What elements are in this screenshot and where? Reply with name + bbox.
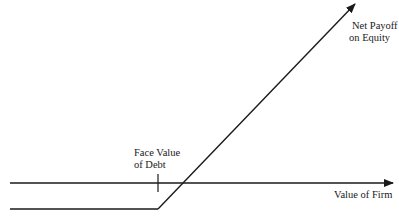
face-value-label-line1: Face Value bbox=[134, 147, 180, 159]
face-value-label-line2: of Debt bbox=[134, 159, 180, 171]
net-payoff-label: Net Payoff on Equity bbox=[349, 20, 398, 44]
x-axis-label: Value of Firm bbox=[334, 189, 392, 201]
payoff-rising-segment bbox=[158, 4, 355, 209]
payoff-diagram-graphic bbox=[0, 0, 399, 219]
payoff-diagram: Net Payoff on Equity Face Value of Debt … bbox=[0, 0, 399, 219]
net-payoff-label-line2: on Equity bbox=[349, 32, 398, 44]
face-value-label: Face Value of Debt bbox=[134, 147, 180, 171]
net-payoff-label-line1: Net Payoff bbox=[349, 20, 398, 32]
